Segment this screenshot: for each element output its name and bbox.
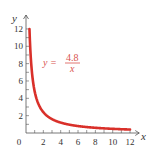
curve-y-equals-4.8-over-x — [29, 29, 130, 130]
x-axis-label: x — [140, 130, 146, 142]
y-tick-label: 10 — [14, 41, 24, 51]
x-tick-label: 4 — [58, 137, 63, 147]
x-tick-label: 8 — [93, 137, 98, 147]
equation-annotation: y = 4.8 x — [42, 52, 80, 74]
x-tick-label: 12 — [126, 137, 135, 147]
axes — [24, 15, 140, 136]
y-tick-label: 6 — [19, 76, 24, 86]
y-tick-label: 4 — [19, 93, 24, 103]
equation-numerator: 4.8 — [66, 52, 79, 63]
x-tick-label: 0 — [17, 137, 22, 147]
equation-denominator: x — [69, 63, 75, 74]
equation-lhs: y = — [42, 57, 57, 68]
y-axis-label: y — [11, 12, 17, 24]
x-tick-label: 6 — [76, 137, 81, 147]
x-tick-label: 2 — [41, 137, 46, 147]
y-tick-label: 12 — [14, 24, 23, 34]
y-tick-label: 2 — [19, 111, 24, 121]
hyperbola-chart: 02468101224681012 y x y = 4.8 x — [0, 0, 154, 152]
y-tick-label: 8 — [19, 59, 24, 69]
x-tick-label: 10 — [108, 137, 118, 147]
